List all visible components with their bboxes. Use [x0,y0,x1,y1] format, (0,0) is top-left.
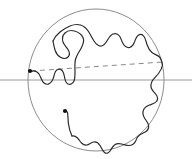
figure-canvas [0,0,192,159]
start-point-lower [63,109,67,113]
figure-container: Random curve in a disk with chord [0,0,192,159]
random-curve-upper [31,31,84,85]
random-curve-group [31,24,163,153]
dashed-chord-line [31,62,163,71]
endpoint-marker-group [28,69,67,113]
random-curve-right-descending [136,65,163,142]
random-curve-lower-left-tail [66,111,73,136]
start-point-left [28,69,32,73]
